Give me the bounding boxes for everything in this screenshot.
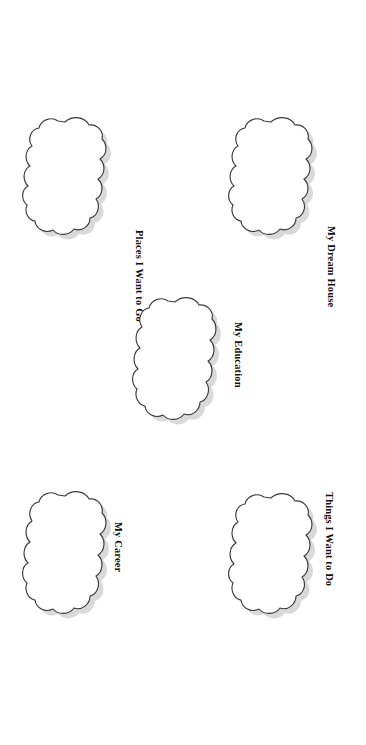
- bubble-label-my-career: My Career: [113, 522, 124, 572]
- cloud-shape-my-career[interactable]: [20, 486, 106, 618]
- bubble-label-my-dream-house: My Dream House: [326, 226, 337, 307]
- cloud-outline-icon: [23, 492, 106, 614]
- cloud-shape-things-i-want-to-do[interactable]: [226, 488, 312, 618]
- cloud-outline-icon: [229, 118, 312, 235]
- cloud-outline-icon: [133, 298, 216, 420]
- cloud-outline-icon: [23, 118, 106, 235]
- bubble-label-things-i-want-to-do: Things I Want to Do: [324, 492, 335, 586]
- cloud-shape-places-i-want-to-go[interactable]: [20, 112, 106, 238]
- cloud-shape-my-dream-house[interactable]: [226, 112, 312, 238]
- bubble-label-my-education: My Education: [233, 322, 244, 388]
- worksheet-page: Places I Want to Go My Dream House My Ed…: [0, 0, 366, 745]
- cloud-shape-my-education[interactable]: [130, 292, 216, 424]
